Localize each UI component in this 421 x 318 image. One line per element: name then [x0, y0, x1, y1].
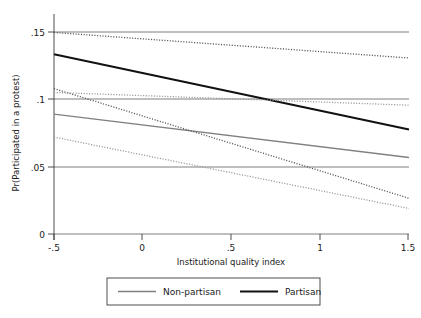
chart-svg: .15 .1 .05 0 -.5 0 .5 1 1.5 Institutiona… — [0, 0, 421, 318]
x-tick-label-3: 1 — [317, 243, 323, 253]
x-axis-title: Institutional quality index — [177, 257, 285, 267]
x-tick-label-4: 1.5 — [401, 243, 415, 253]
y-tick-label-1: .05 — [31, 163, 45, 173]
legend-label-partisan: Partisan — [285, 287, 321, 297]
x-tick-label-2: .5 — [227, 243, 236, 253]
protest-participation-chart: .15 .1 .05 0 -.5 0 .5 1 1.5 Institutiona… — [0, 0, 421, 318]
y-axis-title: Pr(Participated in a protest) — [11, 74, 21, 191]
x-tick-label-1: 0 — [139, 243, 145, 253]
y-tick-label-3: .15 — [31, 28, 45, 38]
y-tick-label-0: 0 — [39, 230, 45, 240]
legend-label-non-partisan: Non-partisan — [163, 287, 221, 297]
chart-background — [0, 0, 421, 318]
x-tick-label-0: -.5 — [48, 243, 60, 253]
y-tick-label-2: .1 — [36, 95, 45, 105]
